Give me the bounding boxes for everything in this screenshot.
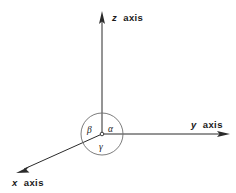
angle-label-gamma: γ bbox=[99, 142, 103, 152]
z-axis-label-var: z bbox=[111, 12, 117, 23]
z-axis-label-word: axis bbox=[123, 12, 143, 23]
x-axis-label-word: axis bbox=[24, 177, 44, 188]
x-axis-label-var: x bbox=[11, 177, 18, 188]
y-axis-label-word: axis bbox=[203, 119, 223, 130]
axis-diagram-svg: z axis y axis x axis α β γ bbox=[0, 0, 236, 193]
origin-point bbox=[100, 132, 104, 136]
z-axis-label: z axis bbox=[111, 12, 143, 23]
angle-label-beta: β bbox=[86, 125, 92, 135]
axis-diagram-figure: z axis y axis x axis α β γ bbox=[0, 0, 236, 193]
x-axis-arrowhead bbox=[16, 167, 30, 173]
angle-label-alpha: α bbox=[108, 124, 114, 134]
y-axis-label-var: y bbox=[190, 119, 197, 130]
x-axis-label: x axis bbox=[11, 177, 44, 188]
y-axis-label: y axis bbox=[190, 119, 223, 130]
